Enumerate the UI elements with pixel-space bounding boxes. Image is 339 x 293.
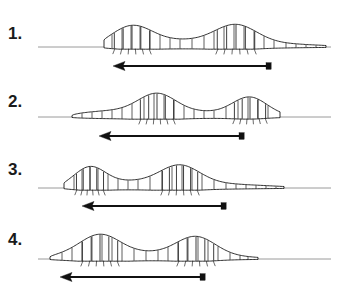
panel-label-2: 2. [8,92,22,112]
panel-group-4 [38,234,331,281]
larva-body-outline [104,24,326,49]
figure-canvas [0,0,339,293]
panel-label-3: 3. [8,160,22,180]
larva-body-outline [72,93,280,119]
panel-label-4: 4. [8,230,22,250]
arrow-tail-blunt [221,203,226,210]
panel-group-3 [38,165,331,211]
panel-group-1 [38,24,331,70]
larva-locomotion-figure: 1. 2. 3. 4. [0,0,339,293]
arrow-tail-blunt [239,133,244,140]
arrow-tail-blunt [266,63,271,70]
arrow-head-left [99,131,111,140]
arrow-tail-blunt [200,274,205,281]
larva-body-outline [50,234,258,261]
larva-bristle [75,189,77,195]
arrow-head-left [60,272,72,281]
arrow-head-left [113,61,125,70]
arrow-head-left [82,201,94,210]
panel-label-1: 1. [8,24,22,44]
panel-group-2 [38,93,331,140]
